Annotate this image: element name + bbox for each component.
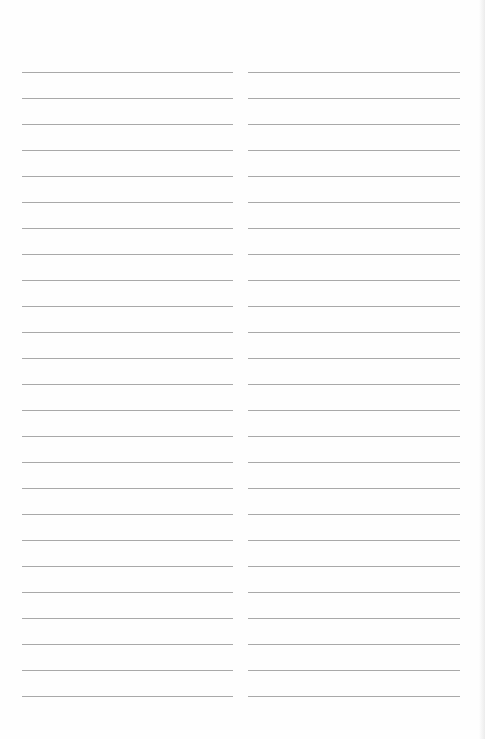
page-edge-shadow <box>479 0 485 739</box>
ruled-line <box>248 384 460 385</box>
ruled-line <box>248 228 460 229</box>
ruled-line <box>248 280 460 281</box>
ruled-line <box>22 696 233 697</box>
ruled-line <box>22 488 233 489</box>
ruled-line <box>248 124 460 125</box>
ruled-line <box>22 358 233 359</box>
ruled-line <box>248 644 460 645</box>
ruled-line <box>248 410 460 411</box>
ruled-line <box>22 176 233 177</box>
ruled-line <box>248 306 460 307</box>
ruled-line <box>248 670 460 671</box>
ruled-line <box>22 540 233 541</box>
ruled-line <box>22 566 233 567</box>
ruled-line <box>22 332 233 333</box>
ruled-line <box>248 254 460 255</box>
ruled-line <box>248 98 460 99</box>
ruled-line <box>248 618 460 619</box>
ruled-line <box>22 670 233 671</box>
ruled-line <box>22 72 233 73</box>
ruled-line <box>22 514 233 515</box>
ruled-line <box>22 228 233 229</box>
lined-paper-page <box>0 0 485 739</box>
ruled-line <box>22 150 233 151</box>
ruled-line <box>248 150 460 151</box>
ruled-line <box>22 98 233 99</box>
ruled-line <box>22 436 233 437</box>
ruled-line <box>248 358 460 359</box>
ruled-line <box>22 306 233 307</box>
ruled-line <box>248 696 460 697</box>
ruled-line <box>22 462 233 463</box>
ruled-line <box>248 462 460 463</box>
ruled-line <box>248 514 460 515</box>
ruled-line <box>22 384 233 385</box>
ruled-line <box>248 72 460 73</box>
ruled-line <box>248 540 460 541</box>
ruled-line <box>248 332 460 333</box>
ruled-line <box>22 410 233 411</box>
ruled-line <box>22 592 233 593</box>
ruled-line <box>248 202 460 203</box>
ruled-line <box>248 592 460 593</box>
ruled-line <box>22 254 233 255</box>
ruled-line <box>22 618 233 619</box>
ruled-line <box>248 566 460 567</box>
ruled-line <box>248 436 460 437</box>
ruled-line <box>22 644 233 645</box>
ruled-line <box>248 488 460 489</box>
ruled-line <box>22 202 233 203</box>
ruled-line <box>22 280 233 281</box>
ruled-line <box>248 176 460 177</box>
ruled-line <box>22 124 233 125</box>
